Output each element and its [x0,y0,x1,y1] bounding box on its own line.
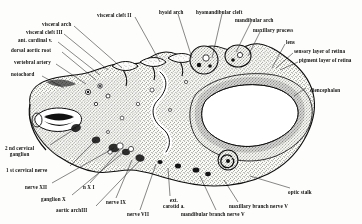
ld-visceral-cleft-3 [64,34,108,70]
label-nerve-ix: nerve IX [106,200,126,206]
label-1st-cervical-nerve: 1 st cervical nerve [6,168,47,174]
label-dorsal-aortic-root: dorsal aortic root [11,48,51,54]
label-hyoid-arch: hyoid arch [159,10,183,16]
label-sensory-layer-of-retina: sensory layer of retina [294,49,345,55]
label-visceral-cleft-2: visceral cleft II [97,13,132,19]
label-nerve-vii: nerve VII [127,212,149,218]
label-hyomandibular-cleft: hyomandibular cleft [196,10,242,16]
anatomical-figure: visceral archvisceral cleft IIIant. card… [0,0,362,224]
mandibular-arch-mass [190,46,218,74]
embryo-body [30,44,315,186]
label-ganglion-x: ganglion X [41,197,66,203]
label-ext-carotid: ext.carotid a. [163,198,185,210]
label-n-x-i: n X I [83,185,95,191]
label-diencephalon: diencephalon [310,88,340,94]
label-2nd-cervical-ganglion: 2 nd cervicalganglion [5,146,34,158]
ld-visceral-arch [74,26,122,68]
maxillary-process-mass [225,45,251,67]
ld-hyoid-arch [178,14,192,58]
label-mandibular-arch: mandibular arch [235,18,274,24]
label-maxillary-branch-nerve-v: maxillary branch nerve V [229,204,288,210]
label-maxillary-process: maxillary process [253,28,293,34]
label-ant-cardinal-v: ant. cardinal v. [18,38,52,44]
label-pigment-layer-of-retina: pigment layer of retina [299,58,352,64]
label-visceral-cleft-3: visceral cleft III [26,30,63,36]
label-lens: lens [286,40,295,46]
label-visceral-arch: visceral arch [42,22,71,28]
label-notochord: notochord [11,72,34,78]
ld-ant-cardinal-v [58,42,100,75]
label-optic-stalk: optic stalk [288,190,312,196]
label-aortic-arch-iii: aortic archIII [56,208,87,214]
label-vertebral-artery: vertebral artery [14,60,51,66]
label-mandibular-branch-nerve-v: mandibular branch nerve V [181,212,245,218]
label-nerve-xii: nerve XII [25,185,47,191]
optic-stalk-structure [218,150,238,170]
